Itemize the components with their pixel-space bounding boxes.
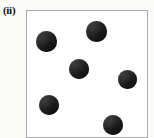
particle-marker xyxy=(86,21,107,42)
particle-field-box xyxy=(26,10,148,138)
particle-marker xyxy=(103,115,123,135)
particle-marker xyxy=(39,95,59,115)
particle-marker xyxy=(118,70,137,89)
panel-label: (ii) xyxy=(3,4,15,16)
particle-marker xyxy=(36,31,57,52)
figure-panel: (ii) xyxy=(0,0,154,138)
particle-marker xyxy=(69,59,89,79)
